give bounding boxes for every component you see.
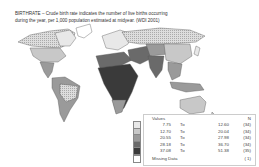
legend-missing-count: ( 1) xyxy=(244,156,251,161)
region-australia xyxy=(180,96,206,114)
legend-swatch-missing xyxy=(133,155,141,163)
region-greenland xyxy=(76,24,92,38)
legend-n-header: N xyxy=(248,116,251,121)
region-china xyxy=(164,44,192,64)
region-mexico-central-america xyxy=(40,62,54,78)
legend-values-header: Values xyxy=(152,116,165,121)
region-southeast-asia xyxy=(168,62,182,80)
region-indonesia xyxy=(170,82,204,92)
legend-missing-label: Missing Data xyxy=(152,156,177,161)
legend-swatch-5 xyxy=(133,147,141,155)
region-south-asia xyxy=(148,56,164,78)
region-russia xyxy=(122,28,205,44)
legend-row: 12.70 To 20.04 (34) xyxy=(144,129,255,135)
map-legend: Values N 7.75 To 12.60 (34) 12.70 To 20.… xyxy=(143,114,256,166)
legend-row: 20.55 To 27.98 (34) xyxy=(144,135,255,141)
legend-row: 7.75 To 12.60 (34) xyxy=(144,122,255,128)
legend-row: 37.08 To 51.38 (35) xyxy=(144,148,255,154)
region-japan xyxy=(194,46,200,56)
region-usa xyxy=(30,48,66,62)
legend-row: 28.18 To 36.70 (34) xyxy=(144,142,255,148)
